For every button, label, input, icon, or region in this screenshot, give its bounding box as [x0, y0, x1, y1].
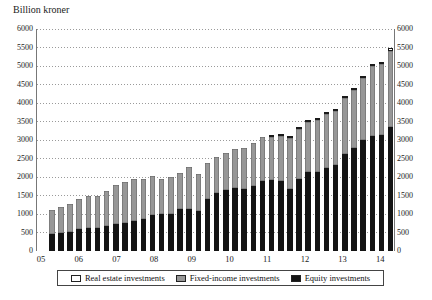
- legend: Real estate investments Fixed-income inv…: [57, 270, 384, 286]
- fixed-income-segment: [223, 153, 229, 190]
- y-axis-label-right: 5500: [397, 43, 431, 53]
- bar-stack: [315, 118, 321, 251]
- bar-stack: [58, 207, 64, 251]
- y-axis-label-right: 1000: [397, 209, 431, 219]
- fixed-income-segment: [315, 120, 321, 173]
- bar-stack: [296, 127, 302, 251]
- bar-stack: [370, 64, 376, 251]
- equity-segment: [186, 209, 192, 251]
- fixed-income-segment: [360, 78, 366, 140]
- bar-stack: [241, 148, 247, 251]
- bar-stack: [388, 48, 394, 251]
- legend-item-fixed-income: Fixed-income investments: [176, 273, 280, 283]
- bar-stack: [86, 196, 92, 251]
- equity-segment: [260, 181, 266, 251]
- fixed-income-segment: [333, 111, 339, 165]
- x-axis-year-label: 10: [218, 254, 242, 264]
- y-axis-label-left: 6000: [0, 24, 33, 34]
- y-axis-label-left: 5000: [0, 61, 33, 71]
- equity-segment: [95, 228, 101, 251]
- equity-segment: [168, 214, 174, 251]
- bar-stack: [342, 96, 348, 251]
- y-axis-label-right: 3000: [397, 135, 431, 145]
- gridline: [37, 84, 394, 85]
- y-axis-label-right: 6000: [397, 24, 431, 34]
- x-axis-year-label: 05: [29, 254, 53, 264]
- equity-segment: [379, 135, 385, 251]
- fixed-income-segment: [214, 157, 220, 194]
- bar-stack: [186, 167, 192, 251]
- bar-stack: [287, 136, 293, 251]
- bar-stack: [122, 182, 128, 251]
- fixed-income-segment: [260, 137, 266, 181]
- fixed-income-segment: [388, 51, 394, 127]
- fixed-income-segment: [305, 122, 311, 172]
- bar-stack: [333, 109, 339, 251]
- y-axis-label-left: 1500: [0, 191, 33, 201]
- equity-segment: [232, 188, 238, 251]
- equity-swatch-icon: [291, 275, 301, 282]
- equity-segment: [241, 189, 247, 251]
- bar-stack: [67, 204, 73, 251]
- y-axis-label-right: 5000: [397, 61, 431, 71]
- bar-stack: [141, 179, 147, 252]
- bar-stack: [49, 210, 55, 251]
- equity-segment: [86, 228, 92, 251]
- equity-segment: [388, 127, 394, 251]
- y-axis-label-left: 4500: [0, 80, 33, 90]
- y-axis-label-left: 500: [0, 228, 33, 238]
- stacked-bar-chart: Billion kroner 0050050010001000150015002…: [0, 0, 432, 300]
- equity-segment: [287, 189, 293, 251]
- gridline: [37, 29, 394, 30]
- y-axis-label-left: 5500: [0, 43, 33, 53]
- x-axis-year-label: 07: [104, 254, 128, 264]
- gridline: [37, 140, 394, 141]
- bar-stack: [196, 174, 202, 251]
- chart-title: Billion kroner: [13, 4, 69, 16]
- equity-segment: [342, 154, 348, 251]
- equity-segment: [324, 168, 330, 251]
- equity-segment: [370, 136, 376, 251]
- fixed-income-segment: [269, 137, 275, 180]
- equity-segment: [141, 219, 147, 251]
- equity-segment: [315, 172, 321, 251]
- y-axis-label-left: 3000: [0, 135, 33, 145]
- bar-stack: [113, 185, 119, 251]
- fixed-income-segment: [49, 210, 55, 234]
- legend-label-real-estate: Real estate investments: [85, 273, 165, 283]
- y-axis-label-right: 500: [397, 228, 431, 238]
- fixed-income-segment: [196, 174, 202, 211]
- equity-segment: [49, 234, 55, 251]
- fixed-income-segment: [58, 207, 64, 233]
- fixed-income-segment: [159, 179, 165, 214]
- bar-stack: [278, 134, 284, 251]
- fixed-income-segment: [177, 173, 183, 210]
- y-axis-label-right: 2000: [397, 172, 431, 182]
- legend-label-fixed-income: Fixed-income investments: [190, 273, 280, 283]
- y-axis-label-right: 1500: [397, 191, 431, 201]
- fixed-income-segment: [95, 196, 101, 228]
- bar-stack: [269, 135, 275, 252]
- x-axis-year-label: 14: [368, 254, 392, 264]
- fixed-income-segment: [86, 196, 92, 228]
- bar-stack: [104, 191, 110, 251]
- equity-segment: [205, 199, 211, 251]
- equity-segment: [113, 224, 119, 251]
- y-axis-label-right: 3500: [397, 117, 431, 127]
- bar-stack: [251, 143, 257, 251]
- fixed-income-segment: [251, 143, 257, 185]
- bar-stack: [223, 153, 229, 251]
- plot-area: [36, 29, 395, 251]
- bar-stack: [232, 149, 238, 251]
- y-axis-label-right: 4000: [397, 98, 431, 108]
- x-axis-year-label: 11: [255, 254, 279, 264]
- fixed-income-segment: [296, 129, 302, 179]
- y-axis-label-right: 2500: [397, 154, 431, 164]
- bar-stack: [177, 173, 183, 251]
- bar-stack: [214, 157, 220, 251]
- bar-stack: [351, 88, 357, 251]
- fixed-income-segment: [205, 163, 211, 199]
- bar-stack: [379, 62, 385, 251]
- fixed-income-segment: [232, 149, 238, 188]
- fixed-income-segment: [76, 199, 82, 229]
